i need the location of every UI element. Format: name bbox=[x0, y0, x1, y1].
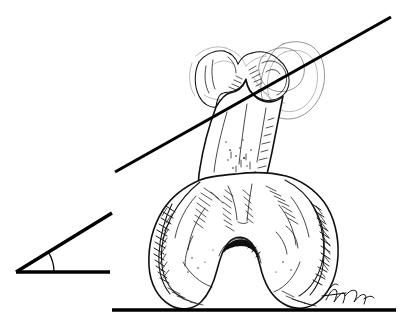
femur-anteversion-figure bbox=[0, 0, 405, 330]
illustration-canvas: Femoral anteversion angle illustration L… bbox=[0, 0, 405, 330]
